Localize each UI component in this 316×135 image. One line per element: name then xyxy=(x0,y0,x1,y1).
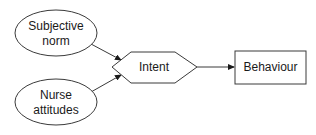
node-label-line-2: norm xyxy=(42,34,69,48)
node-nurse-attitudes: Nurse attitudes xyxy=(15,79,97,125)
node-label-line-1: Nurse xyxy=(40,88,72,102)
node-label: Intent xyxy=(139,60,170,74)
node-subjective-norm: Subjective norm xyxy=(15,10,97,56)
ellipse-shape xyxy=(15,79,97,125)
diagram-canvas: Subjective norm Nurse attitudes Intent B… xyxy=(0,0,316,135)
edge-nurse-attitudes-to-intent xyxy=(91,75,121,92)
node-label-line-1: Subjective xyxy=(28,19,84,33)
ellipse-shape xyxy=(15,10,97,56)
edge-subjective-norm-to-intent xyxy=(91,44,121,60)
node-label: Behaviour xyxy=(243,60,297,74)
node-intent: Intent xyxy=(112,52,197,83)
node-behaviour: Behaviour xyxy=(235,51,306,84)
node-label-line-2: attitudes xyxy=(33,103,78,117)
